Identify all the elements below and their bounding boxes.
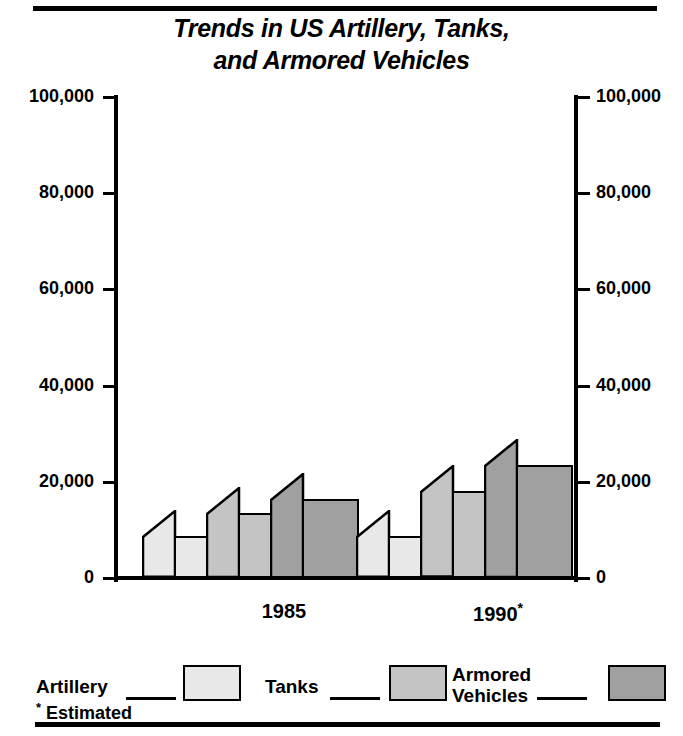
bar-side-face bbox=[206, 487, 242, 578]
bar-side-face bbox=[484, 439, 520, 578]
bottom-rule bbox=[35, 722, 660, 727]
axis-tick-l-100000 bbox=[103, 96, 115, 99]
x-axis-label-1990: 1990* bbox=[418, 600, 578, 626]
legend-label-tanks: Tanks bbox=[265, 676, 319, 697]
axis-tick-r-60000 bbox=[578, 288, 590, 291]
bar-side-face bbox=[420, 465, 456, 578]
footnote: * Estimated bbox=[36, 700, 132, 724]
footnote-text: Estimated bbox=[46, 703, 132, 723]
y-axis-left-label-100000: 100,000 bbox=[29, 86, 94, 107]
legend-label-line-1: Armored bbox=[452, 664, 531, 685]
axis-tick-r-80000 bbox=[578, 192, 590, 195]
bar-armored-vehicles-1990 bbox=[484, 439, 573, 578]
y-axis-right-label-60000: 60,000 bbox=[596, 278, 651, 299]
y-axis-right-label-100000: 100,000 bbox=[596, 86, 661, 107]
y-axis-left-label-60000: 60,000 bbox=[39, 278, 94, 299]
legend-label-line-1: Tanks bbox=[265, 676, 319, 697]
bar-side-face bbox=[270, 473, 306, 578]
bar-side-face bbox=[356, 510, 392, 578]
legend-label-line-2: Vehicles bbox=[452, 685, 531, 706]
legend-label-armored: ArmoredVehicles bbox=[452, 664, 531, 706]
x-axis-label-text: 1990 bbox=[473, 603, 518, 625]
x-axis-label-asterisk: * bbox=[518, 600, 523, 616]
x-axis-label-1985: 1985 bbox=[204, 600, 364, 623]
bar-side-face bbox=[142, 510, 178, 578]
axis-tick-r-0 bbox=[578, 577, 590, 580]
legend-swatch-armored bbox=[608, 665, 666, 701]
legend-label-artillery: Artillery bbox=[36, 676, 108, 697]
legend-swatch-artillery bbox=[183, 665, 241, 701]
y-axis-right bbox=[574, 95, 578, 582]
axis-tick-l-80000 bbox=[103, 192, 115, 195]
axis-tick-l-40000 bbox=[103, 385, 115, 388]
y-axis-left-label-80000: 80,000 bbox=[39, 182, 94, 203]
y-axis-right-label-80000: 80,000 bbox=[596, 182, 651, 203]
axis-tick-l-0 bbox=[103, 577, 115, 580]
y-axis-left-label-20000: 20,000 bbox=[39, 471, 94, 492]
y-axis-left bbox=[114, 95, 118, 582]
footnote-marker: * bbox=[36, 700, 41, 715]
legend-connector-line bbox=[126, 697, 176, 700]
legend-label-line-1: Artillery bbox=[36, 676, 108, 697]
y-axis-right-label-0: 0 bbox=[596, 567, 606, 588]
bar-armored-vehicles-1985 bbox=[270, 473, 359, 578]
y-axis-right-label-20000: 20,000 bbox=[596, 471, 651, 492]
axis-tick-l-60000 bbox=[103, 288, 115, 291]
axis-tick-l-20000 bbox=[103, 481, 115, 484]
y-axis-left-label-40000: 40,000 bbox=[39, 375, 94, 396]
x-axis-label-text: 1985 bbox=[262, 600, 307, 622]
y-axis-right-label-40000: 40,000 bbox=[596, 375, 651, 396]
axis-tick-r-100000 bbox=[578, 96, 590, 99]
bar-front-face bbox=[302, 499, 359, 578]
plot-area: 0020,00020,00040,00040,00060,00060,00080… bbox=[0, 0, 683, 736]
axis-tick-r-40000 bbox=[578, 385, 590, 388]
axis-tick-r-20000 bbox=[578, 481, 590, 484]
legend-connector-line bbox=[330, 697, 380, 700]
y-axis-left-label-0: 0 bbox=[84, 567, 94, 588]
legend-swatch-tanks bbox=[389, 665, 447, 701]
bar-front-face bbox=[516, 465, 573, 578]
legend-connector-line bbox=[537, 697, 587, 700]
